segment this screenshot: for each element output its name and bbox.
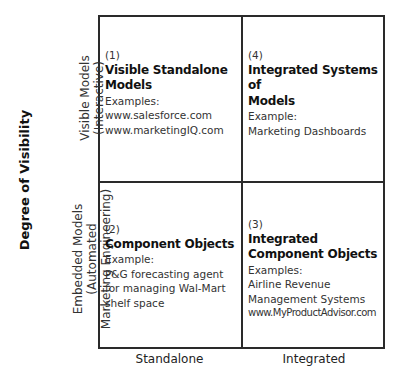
quadrant-4: (4) Integrated Systems of Models Example…: [248, 48, 382, 138]
row-label-visible-models: Visible Models (Interactive): [78, 28, 106, 168]
example-item: www.salesforce.com: [105, 108, 239, 123]
example-item: www.marketingIQ.com: [105, 123, 239, 138]
example-item: P&G forecasting agent: [105, 267, 239, 282]
quadrant-title: Component Objects: [105, 237, 239, 253]
column-label-standalone: Standalone: [98, 352, 241, 366]
quadrant-number: (2): [105, 222, 239, 237]
quadrant-3: (3) Integrated Component Objects Example…: [248, 217, 384, 321]
example-item: shelf space: [105, 296, 239, 311]
horizontal-divider: [98, 181, 385, 183]
column-label-integrated: Integrated: [243, 352, 385, 366]
y-axis-title: Degree of Visibility: [18, 90, 32, 270]
example-item: www.MyProductAdvisor.com: [248, 306, 384, 321]
example-item: for managing Wal-Mart: [105, 281, 239, 296]
quadrant-1: (1) Visible Standalone Models Examples: …: [105, 48, 239, 137]
quadrant-2: (2) Component Objects Example: P&G forec…: [105, 222, 239, 310]
row-label-line: (Automated: [85, 179, 99, 339]
quadrant-title: Component Objects: [248, 247, 384, 263]
quadrant-title: Visible Standalone: [105, 63, 239, 79]
examples-label: Examples:: [248, 263, 384, 278]
quadrant-number: (4): [248, 48, 382, 63]
quadrant-title: Integrated Systems of: [248, 63, 382, 94]
row-label-line: (Interactive): [92, 28, 106, 168]
row-label-line: Embedded Models: [71, 179, 85, 339]
quadrant-title: Models: [248, 94, 382, 110]
quadrant-title: Models: [105, 78, 239, 94]
examples-label: Examples:: [105, 94, 239, 109]
quadrant-number: (1): [105, 48, 239, 63]
example-item: Management Systems: [248, 292, 384, 307]
examples-label: Example:: [248, 109, 382, 124]
example-item: Marketing Dashboards: [248, 124, 382, 139]
quadrant-title: Integrated: [248, 232, 384, 248]
example-item: Airline Revenue: [248, 277, 384, 292]
examples-label: Example:: [105, 252, 239, 267]
quadrant-number: (3): [248, 217, 384, 232]
row-label-line: Visible Models: [78, 28, 92, 168]
